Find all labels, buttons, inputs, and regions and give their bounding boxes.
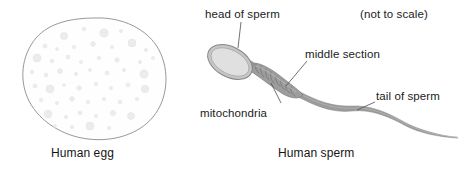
human-sperm-group xyxy=(202,22,458,138)
caption-human-egg: Human egg xyxy=(51,146,114,160)
biology-diagram-figure: head of sperm (not to scale) middle sect… xyxy=(0,0,465,172)
human-egg-group xyxy=(23,18,166,140)
caption-human-sperm: Human sperm xyxy=(278,146,354,160)
label-head-of-sperm: head of sperm xyxy=(205,8,280,21)
label-mitochondria: mitochondria xyxy=(200,107,267,120)
leader-line-middle-section xyxy=(286,61,307,86)
label-middle-section: middle section xyxy=(305,48,380,61)
label-not-to-scale: (not to scale) xyxy=(360,8,428,21)
label-tail-of-sperm: tail of sperm xyxy=(376,90,440,103)
sperm-head xyxy=(202,37,258,86)
leader-line-head xyxy=(238,22,241,48)
egg-membrane-outline xyxy=(23,18,166,140)
